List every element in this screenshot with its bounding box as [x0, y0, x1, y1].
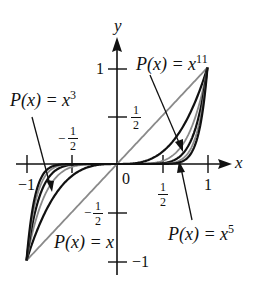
x-tick-1: 1: [204, 176, 212, 194]
y-tick-neg-half-minus: −: [84, 205, 91, 221]
y-axis-label: y: [114, 16, 122, 36]
label-x11: P(x) = x11: [136, 52, 208, 75]
y-tick-1: 1: [96, 60, 104, 78]
x-axis-label: x: [235, 153, 243, 173]
x-tick-half: 12: [158, 181, 168, 208]
label-x1: P(x) = x: [54, 232, 114, 253]
x-tick-neg-half-minus: −: [58, 131, 65, 147]
plot-area: [0, 0, 258, 289]
label-x5: P(x) = x5: [168, 222, 234, 245]
chart-figure: y x 1 12 − 12 −1 −1 − 12 0 12 1 P(x) = x…: [0, 0, 258, 289]
origin-label: 0: [122, 170, 130, 188]
y-tick-neg-1: −1: [132, 253, 149, 271]
label-x3: P(x) = x3: [10, 88, 76, 111]
y-tick-half: 12: [131, 104, 141, 131]
y-tick-neg-half: 12: [93, 200, 103, 227]
x-tick-neg-half: 12: [68, 125, 78, 152]
x-tick-neg-1: −1: [18, 176, 35, 194]
